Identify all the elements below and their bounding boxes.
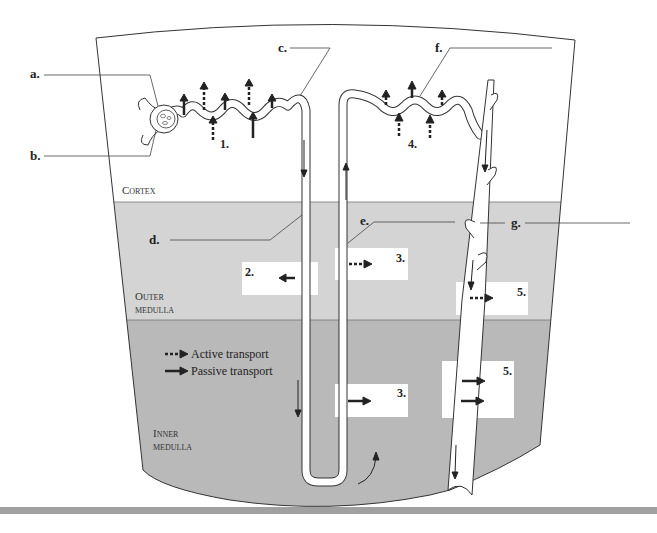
nephron-diagram [0,0,657,533]
site-1-number: 1. [220,138,229,150]
region-inner-medulla-label-1: Inner [153,427,178,439]
region-outer-medulla-label-2: medulla [135,303,174,315]
site-5-inner-number: 5. [503,365,512,377]
label-a: a. [30,67,40,80]
site-5-outer-number: 5. [517,286,526,298]
region-outer-medulla-label-1: Outer [135,290,164,302]
label-c: c. [278,41,287,54]
label-d: d. [149,233,159,246]
legend-passive-transport: Passive transport [191,365,273,377]
label-g: g. [511,216,521,229]
label-b: b. [30,149,40,162]
label-e: e. [360,214,369,227]
site-3-inner-number: 3. [397,387,406,399]
site-3-outer-number: 3. [396,252,405,264]
inner-medulla-region [0,320,657,520]
region-inner-medulla-label-2: medulla [153,440,192,452]
label-f: f. [435,41,443,54]
cortex-region [0,0,657,202]
site-4-number: 4. [408,138,417,150]
site-2-number: 2. [245,266,254,278]
bottom-bar [0,507,657,514]
region-cortex-label: Cortex [122,184,156,196]
outer-medulla-region [0,202,657,320]
legend-active-transport: Active transport [191,348,269,360]
